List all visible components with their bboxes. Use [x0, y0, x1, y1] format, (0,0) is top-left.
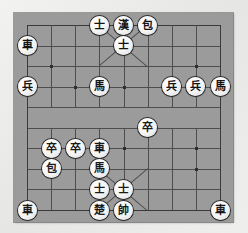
- grid-line-vertical: [172, 128, 173, 210]
- piece-black-general[interactable]: 漢: [114, 16, 133, 35]
- piece-glyph: 車: [22, 205, 33, 216]
- grid-line-vertical: [220, 25, 221, 210]
- star-point-marker: [195, 65, 198, 68]
- piece-glyph: 卒: [70, 143, 81, 154]
- piece-red-soldier[interactable]: 卒: [66, 139, 85, 158]
- piece-glyph: 卒: [46, 143, 57, 154]
- app-root: 士漢包士車兵馬兵兵馬卒卒卒車包馬士士楚帥車車: [0, 0, 248, 233]
- piece-red-soldier[interactable]: 卒: [138, 118, 157, 137]
- piece-black-soldier[interactable]: 兵: [162, 77, 181, 96]
- piece-red-general[interactable]: 楚: [90, 201, 109, 220]
- piece-black-horse[interactable]: 馬: [211, 77, 230, 96]
- piece-glyph: 兵: [166, 81, 177, 92]
- piece-black-soldier[interactable]: 兵: [18, 77, 37, 96]
- piece-red-cannon[interactable]: 包: [42, 159, 61, 178]
- piece-glyph: 包: [46, 163, 57, 174]
- piece-glyph: 卒: [142, 122, 153, 133]
- piece-black-soldier[interactable]: 兵: [186, 77, 205, 96]
- piece-red-chariot[interactable]: 車: [18, 201, 37, 220]
- piece-red-chariot[interactable]: 車: [90, 139, 109, 158]
- piece-glyph: 車: [215, 205, 226, 216]
- piece-glyph: 士: [118, 184, 129, 195]
- piece-glyph: 馬: [215, 81, 226, 92]
- star-point-marker: [74, 86, 77, 89]
- star-point-marker: [123, 86, 126, 89]
- piece-red-advisor[interactable]: 士: [114, 180, 133, 199]
- piece-glyph: 士: [94, 184, 105, 195]
- piece-red-advisor[interactable]: 士: [90, 180, 109, 199]
- piece-glyph: 兵: [22, 81, 33, 92]
- piece-red-chariot[interactable]: 車: [211, 201, 230, 220]
- piece-black-chariot[interactable]: 車: [18, 36, 37, 55]
- piece-glyph: 馬: [94, 81, 105, 92]
- piece-glyph: 漢: [118, 20, 129, 31]
- star-point-marker: [195, 147, 198, 150]
- grid-line-horizontal: [27, 107, 220, 108]
- piece-glyph: 楚: [94, 205, 105, 216]
- piece-black-horse[interactable]: 馬: [90, 77, 109, 96]
- star-point-marker: [50, 65, 53, 68]
- piece-glyph: 車: [22, 40, 33, 51]
- piece-glyph: 包: [142, 20, 153, 31]
- piece-black-advisor[interactable]: 士: [114, 36, 133, 55]
- piece-glyph: 馬: [94, 163, 105, 174]
- grid-line-vertical: [75, 25, 76, 107]
- star-point-marker: [195, 168, 198, 171]
- piece-black-advisor[interactable]: 士: [90, 16, 109, 35]
- piece-red-soldier[interactable]: 卒: [42, 139, 61, 158]
- piece-glyph: 兵: [190, 81, 201, 92]
- piece-glyph: 士: [118, 40, 129, 51]
- grid-line-vertical: [148, 25, 149, 107]
- piece-black-cannon[interactable]: 包: [138, 16, 157, 35]
- piece-glyph: 士: [94, 20, 105, 31]
- piece-glyph: 帥: [118, 205, 129, 216]
- star-point-marker: [123, 147, 126, 150]
- piece-glyph: 車: [94, 143, 105, 154]
- xiangqi-board[interactable]: 士漢包士車兵馬兵兵馬卒卒卒車包馬士士楚帥車車: [14, 13, 233, 222]
- piece-red-marshal[interactable]: 帥: [114, 201, 133, 220]
